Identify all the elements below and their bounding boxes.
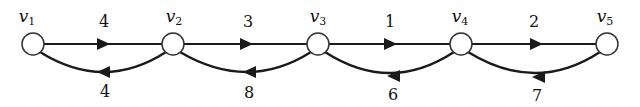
arrow-icon: [530, 38, 543, 50]
node-label: v2: [166, 6, 183, 28]
edge-v4-v5: 2: [472, 12, 596, 50]
edge-weight: 6: [388, 85, 398, 104]
edge-v5-v4: 7: [468, 52, 600, 105]
edge-weight: 4: [100, 82, 110, 101]
node-label: v1: [19, 6, 36, 28]
edge-weight: 4: [99, 12, 109, 31]
graph-canvas: 4 3 1 2 4 8 6 7 v1 v2: [0, 0, 640, 107]
arrow-icon: [240, 38, 253, 50]
edge-v3-v4: 1: [329, 12, 450, 50]
node-v2: v2: [162, 6, 184, 55]
edge-v4-v3: 6: [325, 52, 454, 104]
edge-v3-v2: 8: [180, 52, 311, 102]
node-v1: v1: [19, 6, 44, 55]
edge-weight: 3: [243, 12, 253, 31]
edge-v2-v1: 4: [40, 52, 166, 101]
node-label: v4: [452, 6, 469, 28]
edge-weight: 2: [529, 12, 539, 31]
edge-weight: 8: [244, 83, 254, 102]
arrow-icon: [97, 38, 110, 50]
node-v4: v4: [450, 6, 472, 55]
arrow-icon: [243, 66, 256, 78]
node-label: v5: [597, 6, 614, 28]
node-v5: v5: [596, 6, 618, 55]
arrow-icon: [97, 66, 110, 78]
edge-weight: 7: [532, 86, 542, 105]
edge-weight: 1: [385, 12, 395, 31]
edge-v2-v3: 3: [184, 12, 307, 50]
node-label: v3: [310, 6, 327, 28]
edge-v1-v2: 4: [44, 12, 162, 50]
arrow-icon: [384, 38, 397, 50]
node-v3: v3: [307, 6, 329, 55]
